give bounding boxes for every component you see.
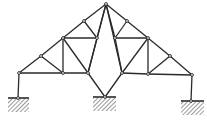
pin-joint-R3 [169,55,172,58]
truss-member-R3-R4 [170,56,192,75]
truss-member-L4-SL [18,73,19,98]
truss-member-BR2-R4 [148,74,192,75]
truss-member-L3-L4 [19,56,41,73]
pin-joint-C [104,96,107,99]
pin-joint-SR [190,100,193,103]
truss-member-BR1-C [105,73,122,97]
truss-member-L2-L3 [41,38,63,56]
pin-joint-R4 [191,74,194,77]
pin-joint-A [105,3,108,6]
truss-member-R3-BR2 [148,56,170,74]
support-left [8,98,29,112]
truss-member-L1-IL [84,21,97,38]
truss-member-R2-R3 [148,38,170,56]
truss-member-BR1-BR2 [122,73,148,74]
pin-joint-IR [114,37,117,40]
truss-member-L3-BL1 [41,56,63,73]
truss-member-R4-SR [191,75,192,101]
pin-joint-SL [17,97,20,100]
pin-joint-BL2 [87,72,90,75]
pin-joint-R1 [126,20,129,23]
truss-diagram [0,0,207,126]
truss-member-R2-BR1 [122,38,148,73]
pin-joint-BL1 [62,72,65,75]
support-center [93,97,116,111]
supports-group [8,97,204,115]
members-group [18,4,192,101]
support-right [181,101,204,115]
truss-member-L2-BL2 [63,38,88,73]
ground-hatch [93,98,116,111]
pin-joint-R2 [147,37,150,40]
pin-joint-IL [96,37,99,40]
pin-joint-BR1 [121,72,124,75]
truss-canvas [0,0,207,126]
pin-joint-L3 [40,55,43,58]
pin-joint-L1 [83,20,86,23]
truss-member-R1-R2 [127,21,148,38]
ground-hatch [181,102,204,115]
ground-hatch [8,99,29,112]
pin-joint-BR2 [147,73,150,76]
nodes-group [17,3,194,103]
truss-member-BL2-C [88,73,105,97]
pin-joint-L2 [62,37,65,40]
truss-member-R1-IR [115,21,127,38]
truss-member-L1-L2 [63,21,84,38]
pin-joint-L4 [18,72,21,75]
